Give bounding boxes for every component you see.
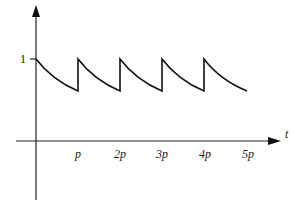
sawtooth-curve [36,59,247,91]
x-tick-2p: 2p [114,148,126,160]
x-tick-p: p [75,148,81,160]
plot [0,0,292,205]
x-tick-3p: 3p [156,148,168,160]
x-tick-5p: 5p [242,148,254,160]
x-axis-arrow-icon [268,137,281,145]
y-label-one: 1 [20,53,26,65]
t-axis-label: t [285,128,288,140]
x-tick-4p: 4p [199,148,211,160]
y-axis-arrow-icon [32,5,40,17]
